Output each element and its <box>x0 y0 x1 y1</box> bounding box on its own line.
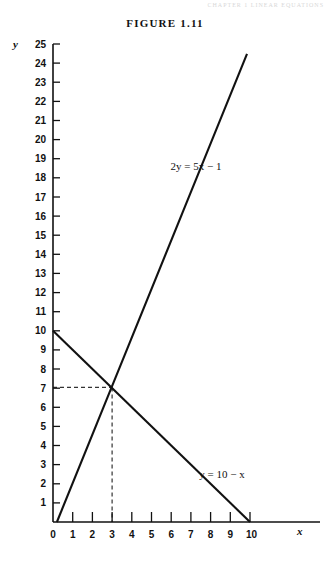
equation-label-line1: 2y = 5x − 1 <box>171 160 222 172</box>
y-tick-label: 11 <box>35 306 46 317</box>
y-tick-label: 19 <box>35 153 47 164</box>
y-tick-label: 13 <box>35 268 47 279</box>
x-tick-label: 1 <box>70 529 76 540</box>
y-tick-label: 20 <box>35 134 47 145</box>
line-y-equals-10-minus-x <box>53 331 250 522</box>
x-tick-label: 4 <box>129 529 135 540</box>
y-tick-label: 9 <box>40 344 46 355</box>
x-tick-label: 8 <box>208 529 214 540</box>
x-tick-label: 3 <box>109 529 115 540</box>
y-tick-label: 15 <box>35 230 47 241</box>
y-tick-label: 18 <box>35 172 47 183</box>
figure-page: CHAPTER 1 LINEAR EQUATIONS FIGURE 1.11 <box>0 0 330 568</box>
y-tick-label: 5 <box>40 421 46 432</box>
x-tick-label: 2 <box>90 529 96 540</box>
y-tick-label: 6 <box>40 402 46 413</box>
x-tick-label: 0 <box>50 529 56 540</box>
equation-label-line2: y = 10 − x <box>199 468 245 480</box>
x-tick-label: 9 <box>228 529 234 540</box>
y-tick-label: 14 <box>35 249 47 260</box>
y-tick-label: 7 <box>40 383 46 394</box>
y-tick-label: 24 <box>35 58 47 69</box>
x-axis-ticks <box>73 512 250 522</box>
line-2y-equals-5x-minus-1 <box>57 54 247 522</box>
x-axis-label: x <box>296 525 303 537</box>
x-tick-label: 5 <box>149 529 155 540</box>
y-tick-label: 3 <box>40 459 46 470</box>
y-tick-label: 12 <box>35 287 47 298</box>
y-tick-label: 16 <box>35 211 47 222</box>
coordinate-plot: 25 24 23 22 21 20 19 18 17 16 15 14 13 1… <box>0 0 330 568</box>
y-tick-label: 10 <box>35 325 47 336</box>
y-tick-label: 8 <box>40 364 46 375</box>
y-tick-labels: 25 24 23 22 21 20 19 18 17 16 15 14 13 1… <box>35 39 47 509</box>
y-tick-label: 23 <box>35 77 47 88</box>
y-tick-label: 1 <box>40 497 46 508</box>
y-tick-label: 2 <box>40 478 46 489</box>
y-tick-label: 4 <box>40 440 46 451</box>
y-axis-ticks <box>53 44 60 503</box>
x-tick-label: 10 <box>246 529 258 540</box>
x-tick-labels: 0 1 2 3 4 5 6 7 8 9 10 <box>50 529 257 540</box>
y-tick-label: 17 <box>35 192 47 203</box>
y-tick-label: 22 <box>35 96 47 107</box>
y-axis-label: y <box>11 38 18 50</box>
x-tick-label: 6 <box>168 529 174 540</box>
y-tick-label: 25 <box>35 39 47 50</box>
y-tick-label: 21 <box>35 115 47 126</box>
x-tick-label: 7 <box>188 529 194 540</box>
